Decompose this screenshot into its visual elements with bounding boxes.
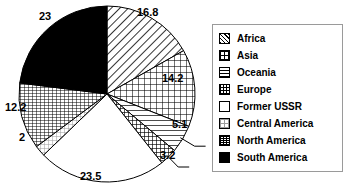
legend-item-south-america[interactable]: South America [219,149,342,166]
chart-legend: Africa Asia Oceania Europe Former USSR C… [212,24,343,172]
slice-value-label-former-ussr: 23.5 [80,170,101,182]
slice-value-label-oceania: 5.1 [172,118,187,130]
legend-label-africa: Africa [237,33,265,44]
legend-swatch-oceania-icon [219,67,230,78]
legend-swatch-former-ussr-icon [219,101,230,112]
leader-line-oceania [180,138,205,147]
slice-value-label-europe: 3.2 [160,149,175,161]
slice-value-label-central-america: 2 [19,131,25,143]
legend-swatch-south-america-icon [219,152,230,163]
pie-slice-south-america[interactable] [20,6,107,94]
legend-label-central-america: Central America [237,118,313,129]
legend-swatch-europe-icon [219,84,230,95]
pie-chart-figure: 16.8 14.2 5.1 3.2 23.5 2 12.2 23 Africa … [0,0,350,191]
slice-value-label-asia: 14.2 [162,72,183,84]
legend-swatch-asia-icon [219,50,230,61]
legend-label-asia: Asia [237,50,258,61]
legend-label-south-america: South America [237,152,307,163]
legend-item-north-america[interactable]: North America [219,132,342,149]
legend-swatch-central-america-icon [219,118,230,129]
legend-item-central-america[interactable]: Central America [219,115,342,132]
legend-swatch-africa-icon [219,33,230,44]
legend-item-europe[interactable]: Europe [219,81,342,98]
legend-item-former-ussr[interactable]: Former USSR [219,98,342,115]
legend-item-oceania[interactable]: Oceania [219,64,342,81]
legend-item-asia[interactable]: Asia [219,47,342,64]
legend-label-north-america: North America [237,135,306,146]
legend-item-africa[interactable]: Africa [219,30,342,47]
pie-chart-svg [0,0,215,191]
legend-label-former-ussr: Former USSR [237,101,302,112]
legend-label-europe: Europe [237,84,271,95]
legend-label-oceania: Oceania [237,67,276,78]
slice-value-label-north-america: 12.2 [5,101,26,113]
legend-swatch-north-america-icon [219,135,230,146]
pie-chart-plot-area: 16.8 14.2 5.1 3.2 23.5 2 12.2 23 [0,0,215,191]
slice-value-label-africa: 16.8 [137,6,158,18]
slice-value-label-south-america: 23 [39,10,51,22]
